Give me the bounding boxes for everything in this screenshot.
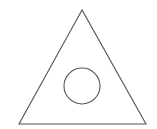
circle-shape — [64, 68, 100, 104]
diagram-canvas — [0, 0, 157, 129]
triangle-circle-diagram — [0, 0, 157, 129]
triangle-shape — [19, 10, 146, 124]
